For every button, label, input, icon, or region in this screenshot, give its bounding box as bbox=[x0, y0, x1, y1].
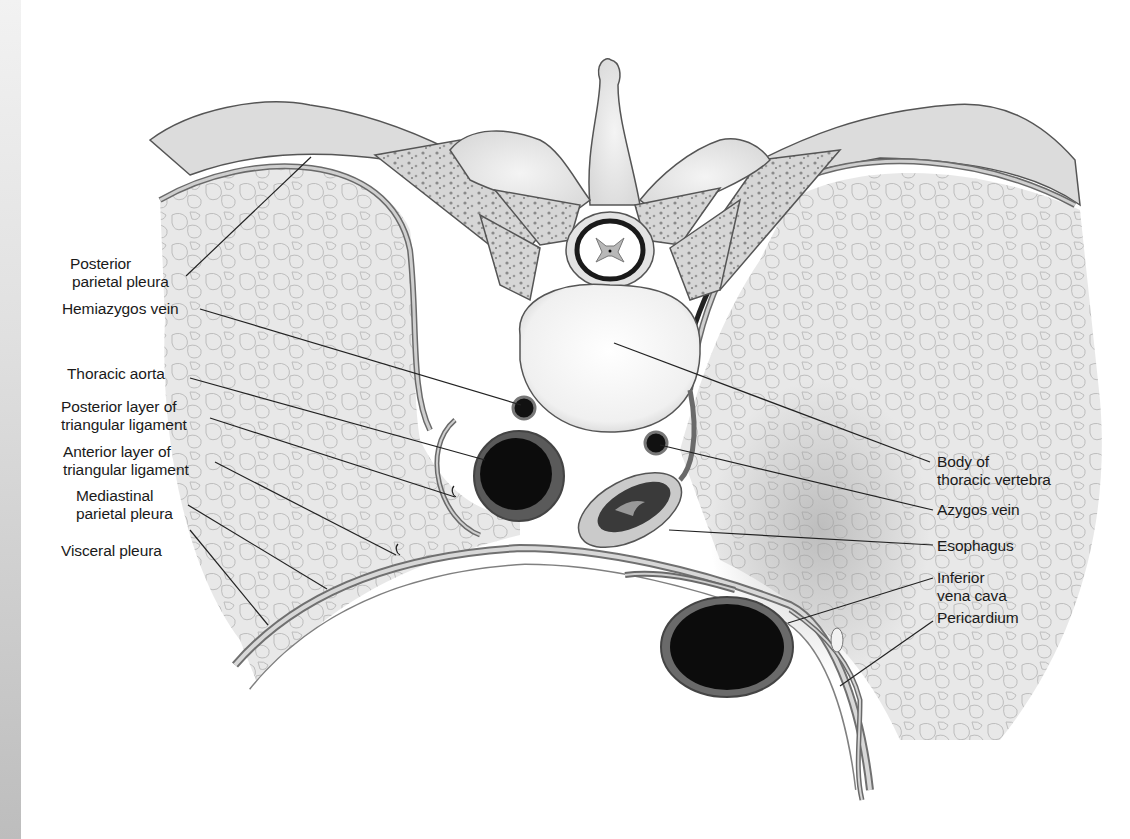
label-line: Anterior layer of bbox=[63, 443, 189, 461]
label-line: Posterior bbox=[70, 255, 169, 273]
label-hemiazygos-vein: Hemiazygos vein bbox=[62, 300, 179, 318]
label-line: Azygos vein bbox=[937, 501, 1019, 519]
label-posterior-parietal-pleura: Posterior parietal pleura bbox=[70, 255, 169, 291]
vertebral-body bbox=[520, 284, 700, 432]
label-line: Pericardium bbox=[937, 609, 1019, 627]
label-mediastinal-parietal-pleura: Mediastinal parietal pleura bbox=[76, 487, 173, 523]
label-line: Visceral pleura bbox=[61, 542, 162, 560]
label-esophagus: Esophagus bbox=[937, 537, 1014, 555]
label-line: Body of bbox=[937, 453, 1051, 471]
label-line: Thoracic aorta bbox=[67, 365, 165, 383]
azygos-vein bbox=[645, 432, 667, 454]
label-pericardium: Pericardium bbox=[937, 609, 1019, 627]
label-line: triangular ligament bbox=[63, 461, 189, 479]
label-line: Hemiazygos vein bbox=[62, 300, 179, 318]
label-line: parietal pleura bbox=[76, 505, 173, 523]
label-line: vena cava bbox=[937, 587, 1007, 605]
label-line: Mediastinal bbox=[76, 487, 173, 505]
label-line: thoracic vertebra bbox=[937, 471, 1051, 489]
label-azygos-vein: Azygos vein bbox=[937, 501, 1019, 519]
label-line: parietal pleura bbox=[70, 273, 169, 291]
label-visceral-pleura: Visceral pleura bbox=[61, 542, 162, 560]
label-posterior-layer-triangular-ligament: Posterior layer of triangular ligament bbox=[61, 398, 187, 434]
hemiazygos-vein bbox=[513, 397, 535, 419]
label-body-of-thoracic-vertebra: Body of thoracic vertebra bbox=[937, 453, 1051, 489]
label-line: Inferior bbox=[937, 569, 1007, 587]
label-line: triangular ligament bbox=[61, 416, 187, 434]
label-line: Esophagus bbox=[937, 537, 1014, 555]
label-thoracic-aorta: Thoracic aorta bbox=[67, 365, 165, 383]
label-inferior-vena-cava: Inferior vena cava bbox=[937, 569, 1007, 605]
label-line: Posterior layer of bbox=[61, 398, 187, 416]
label-anterior-layer-triangular-ligament: Anterior layer of triangular ligament bbox=[63, 443, 189, 479]
spinous-process bbox=[589, 59, 640, 205]
